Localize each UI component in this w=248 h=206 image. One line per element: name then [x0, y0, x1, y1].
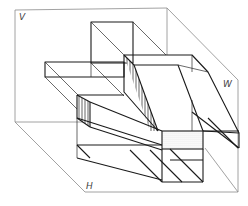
v-w-fold-diagonal: [167, 8, 238, 80]
plane-label-h: H: [86, 181, 93, 191]
v-h-fold-diagonal: [15, 122, 85, 192]
plane-label-v: V: [19, 12, 26, 22]
dotted-front-face: [162, 131, 203, 149]
plane-label-w: W: [223, 79, 233, 89]
projection-diagram: V W H: [0, 0, 248, 206]
sloped-face-hatched-right: [124, 55, 158, 131]
w-inner-diagonal: [205, 148, 238, 192]
left-arm-front-face: [45, 62, 124, 77]
projection-planes-frame: [15, 8, 238, 192]
front-base-block: [130, 131, 239, 182]
